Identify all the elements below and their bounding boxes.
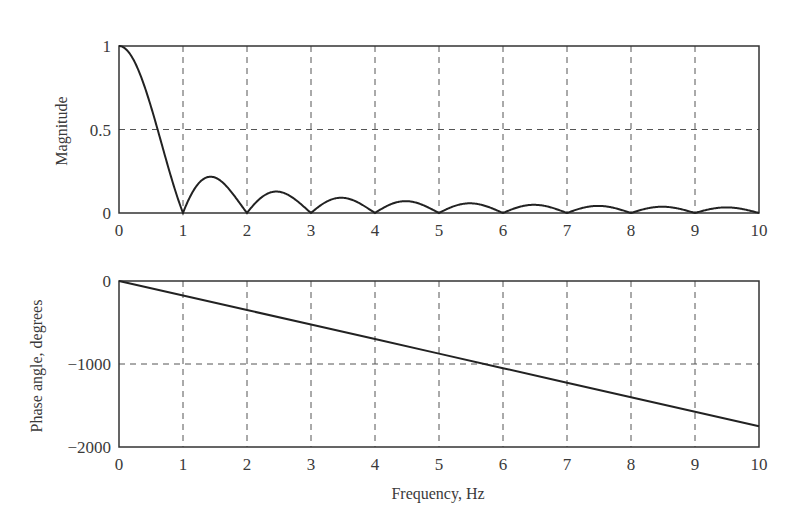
x-tick-label: 2 xyxy=(243,455,252,474)
y-tick-label: 0 xyxy=(103,272,112,291)
x-tick-label: 4 xyxy=(371,221,380,240)
x-tick-label: 9 xyxy=(691,221,700,240)
x-tick-label: 2 xyxy=(243,221,252,240)
x-tick-label: 6 xyxy=(499,221,508,240)
x-tick-label: 3 xyxy=(307,455,316,474)
x-tick-label: 8 xyxy=(627,221,636,240)
frequency-axis-label: Frequency, Hz xyxy=(391,485,484,503)
x-tick-label: 6 xyxy=(499,455,508,474)
x-tick-label: 5 xyxy=(435,455,444,474)
phase-axis-label: Phase angle, degrees xyxy=(28,300,46,433)
magnitude-plot: 01234567891000.51 xyxy=(90,37,768,240)
phase-plot: 012345678910−2000−10000 xyxy=(67,272,767,474)
chart-figure: 01234567891000.51 012345678910−2000−1000… xyxy=(0,0,802,529)
y-tick-label: 0 xyxy=(103,204,112,223)
y-tick-label: 1 xyxy=(103,37,112,56)
x-tick-label: 1 xyxy=(179,455,188,474)
x-tick-label: 5 xyxy=(435,221,444,240)
x-tick-label: 4 xyxy=(371,455,380,474)
x-tick-label: 7 xyxy=(563,455,572,474)
x-tick-label: 1 xyxy=(179,221,188,240)
magnitude-axis-label: Magnitude xyxy=(53,96,71,165)
x-tick-label: 10 xyxy=(751,455,768,474)
x-tick-label: 8 xyxy=(627,455,636,474)
x-tick-label: 9 xyxy=(691,455,700,474)
x-tick-label: 7 xyxy=(563,221,572,240)
x-tick-label: 0 xyxy=(115,455,124,474)
y-tick-label: −2000 xyxy=(67,438,111,457)
y-tick-label: −1000 xyxy=(67,355,111,374)
x-tick-label: 3 xyxy=(307,221,316,240)
y-tick-label: 0.5 xyxy=(90,121,111,140)
x-tick-label: 10 xyxy=(751,221,768,240)
x-tick-label: 0 xyxy=(115,221,124,240)
